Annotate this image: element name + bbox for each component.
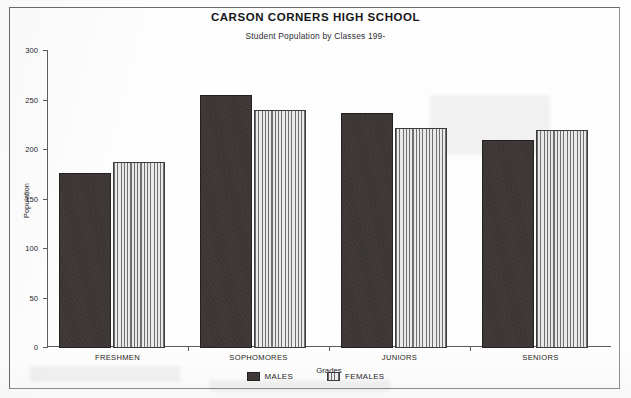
plot-area: 050100150200250300 Population FRESHMENSO… (47, 48, 613, 350)
bar-freshmen-males (59, 173, 111, 348)
y-axis-label: Population (22, 183, 31, 218)
bar-sophomores-females (254, 110, 306, 348)
category-label-seniors: SENIORS (522, 353, 558, 362)
legend-swatch-males-icon (247, 372, 260, 381)
legend-swatch-females-icon (327, 372, 340, 381)
y-axis-tick: 300 (43, 50, 48, 51)
x-axis-tick (329, 347, 330, 351)
bar-juniors-females (395, 128, 447, 348)
x-axis-tick (470, 347, 471, 351)
category-label-freshmen: FRESHMEN (95, 353, 140, 362)
y-axis-tick: 100 (43, 248, 48, 249)
legend-item-males: MALES (247, 372, 294, 381)
y-axis-tick: 0 (43, 347, 48, 348)
y-axis-tick: 50 (43, 298, 48, 299)
bar-sophomores-males (200, 95, 252, 348)
y-axis-tick: 200 (43, 149, 48, 150)
legend-label-males: MALES (265, 372, 294, 381)
category-label-juniors: JUNIORS (382, 353, 417, 362)
chart-page: CARSON CORNERS HIGH SCHOOL Student Popul… (0, 0, 631, 398)
x-axis-tick (188, 347, 189, 351)
bar-seniors-males (482, 140, 534, 348)
chart-legend: MALESFEMALES (0, 372, 631, 381)
y-axis-tick-label: 50 (30, 293, 38, 302)
bar-seniors-females (536, 130, 588, 348)
y-axis-tick: 150 (43, 199, 48, 200)
y-axis-tick-label: 250 (25, 95, 38, 104)
chart-title: CARSON CORNERS HIGH SCHOOL (0, 11, 631, 23)
y-axis-tick-label: 300 (25, 46, 38, 55)
chart-subtitle: Student Population by Classes 199- (0, 31, 631, 41)
y-axis-tick-label: 100 (25, 244, 38, 253)
y-axis-tick: 250 (43, 100, 48, 101)
legend-item-females: FEMALES (327, 372, 384, 381)
y-axis-tick-label: 0 (34, 343, 38, 352)
y-axis-tick-label: 200 (25, 145, 38, 154)
bar-freshmen-females (113, 162, 165, 348)
bar-juniors-males (341, 113, 393, 348)
category-label-sophomores: SOPHOMORES (229, 353, 287, 362)
legend-label-females: FEMALES (345, 372, 384, 381)
